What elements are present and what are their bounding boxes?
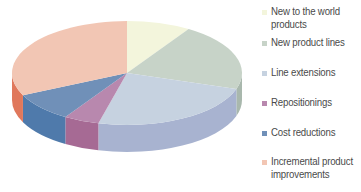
legend-item-line-extensions: Line extensions [262, 66, 361, 79]
legend-swatch-icon [262, 160, 267, 165]
legend-label: Repositionings [271, 96, 361, 109]
legend-label: Line extensions [271, 66, 361, 79]
pie-top-faces [12, 21, 242, 125]
legend-item-cost-reductions: Cost reductions [262, 126, 361, 139]
legend-swatch-icon [262, 41, 267, 46]
legend-item-new-product-lines: New product lines [262, 36, 361, 49]
legend-label: Cost reductions [271, 126, 361, 139]
legend-swatch-icon [262, 10, 267, 15]
legend-swatch-icon [262, 71, 267, 76]
legend-label: Incremental product improvements [271, 155, 361, 181]
legend-swatch-icon [262, 101, 267, 106]
legend-label: New to the world products [271, 5, 361, 31]
pie-chart-3d [0, 0, 250, 192]
legend-swatch-icon [262, 131, 267, 136]
legend-item-new-to-world: New to the world products [262, 5, 361, 31]
legend-item-incremental-improvements: Incremental product improvements [262, 155, 361, 181]
legend-label: New product lines [271, 36, 361, 49]
legend-item-repositionings: Repositionings [262, 96, 361, 109]
